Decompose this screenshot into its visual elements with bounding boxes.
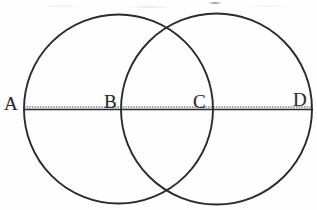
- point-label-c: C: [193, 92, 206, 111]
- geometry-diagram: [0, 0, 317, 210]
- point-label-a: A: [4, 94, 18, 113]
- figure-canvas: A B C D: [0, 0, 317, 210]
- point-label-d: D: [293, 90, 307, 109]
- point-label-b: B: [104, 92, 117, 111]
